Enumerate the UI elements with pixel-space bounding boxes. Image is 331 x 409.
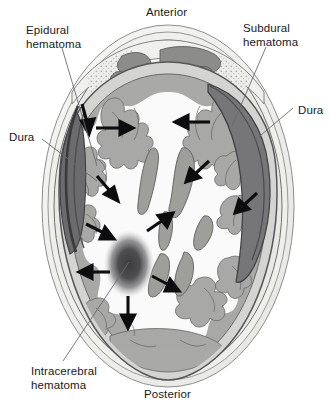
label-subdural-hematoma: Subdural hematoma [243, 22, 298, 49]
label-dura-right: Dura [298, 104, 323, 118]
brain-hematoma-diagram: Anterior Posterior Epidural hematoma Sub… [0, 0, 331, 409]
anatomy-illustration [0, 0, 331, 409]
label-epidural-hematoma: Epidural hematoma [26, 24, 81, 51]
label-intracerebral-hematoma: Intracerebral hematoma [31, 365, 97, 392]
orientation-label-posterior: Posterior [144, 388, 191, 402]
orientation-label-anterior: Anterior [146, 6, 187, 20]
label-dura-left: Dura [9, 131, 34, 145]
